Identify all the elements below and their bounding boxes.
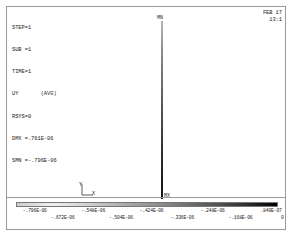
legend-tick-upper-2: -.424E-06 xyxy=(140,208,164,213)
header-line-sub: SUB =1 xyxy=(12,47,57,54)
legend-tick-lower-4: 0 xyxy=(281,215,284,220)
legend-tick-lower-1: -.504E-06 xyxy=(109,215,133,220)
model-beam-geometry xyxy=(161,21,163,199)
legend-tick-lower-2: -.336E-06 xyxy=(170,215,194,220)
legend-tick-row-lower: -.672E-06-.504E-06-.336E-06-.168E-060 xyxy=(7,215,285,223)
contour-color-bar xyxy=(16,202,278,207)
contour-legend: -.796E-06-.548E-06-.424E-06-.248E-06.840… xyxy=(7,197,285,229)
timestamp-block: FEB 17 13:1 xyxy=(263,10,282,25)
triad-y-label: Y xyxy=(79,182,82,188)
stamp-date: FEB 17 xyxy=(263,10,282,17)
ansys-plot-window: STEP=1 SUB =1 TIME=1 UY (AVG) RSYS=0 DMX… xyxy=(6,6,286,230)
legend-tick-upper-4: .840E-07 xyxy=(260,208,281,213)
header-line-component: UY (AVG) xyxy=(12,91,57,98)
result-header-block: STEP=1 SUB =1 TIME=1 UY (AVG) RSYS=0 DMX… xyxy=(12,10,57,180)
graphics-viewport[interactable]: STEP=1 SUB =1 TIME=1 UY (AVG) RSYS=0 DMX… xyxy=(7,7,285,199)
legend-tick-upper-0: -.796E-06 xyxy=(23,208,47,213)
min-node-marker: MN xyxy=(157,15,163,21)
header-line-smn: SMN =-.796E-06 xyxy=(12,158,57,165)
header-line-dmx: DMX =.761E-06 xyxy=(12,136,57,143)
header-line-time: TIME=1 xyxy=(12,69,57,76)
legend-tick-lower-3: -.168E-06 xyxy=(229,215,253,220)
legend-tick-upper-3: -.248E-06 xyxy=(201,208,225,213)
stamp-time: 13:1 xyxy=(263,17,282,24)
legend-tick-upper-1: -.548E-06 xyxy=(81,208,105,213)
header-line-step: STEP=1 xyxy=(12,25,57,32)
legend-tick-lower-0: -.672E-06 xyxy=(51,215,75,220)
header-line-rsys: RSYS=0 xyxy=(12,114,57,121)
